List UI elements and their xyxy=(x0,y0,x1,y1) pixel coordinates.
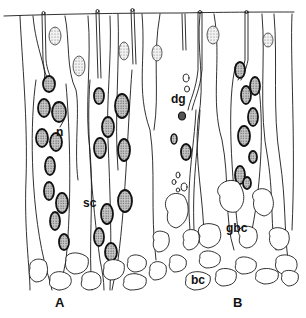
neuron-column-a-right xyxy=(89,70,132,290)
neuron-column-a-left xyxy=(32,76,70,290)
label-bc: bc xyxy=(191,273,205,287)
label-sc: sc xyxy=(83,196,97,210)
panel-label-b: B xyxy=(233,295,242,310)
panel-label-a: A xyxy=(55,295,65,310)
apical-surface-line xyxy=(4,12,294,16)
figure: n dg sc gbc bc A B xyxy=(0,0,306,318)
label-gbc: gbc xyxy=(226,221,248,235)
horizontal-basal-cells xyxy=(29,251,298,290)
label-dg: dg xyxy=(171,92,186,106)
globose-basal-cells xyxy=(153,180,289,252)
label-n: n xyxy=(56,125,63,139)
epithelium-drawing: n dg sc gbc bc A B xyxy=(0,0,306,318)
